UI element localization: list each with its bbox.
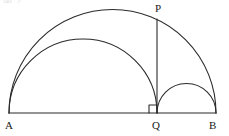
vertex-label-b: B	[209, 120, 216, 131]
right-angle-marker-icon	[149, 105, 157, 113]
geometry-figure: 図 2 A Q B P	[0, 0, 229, 136]
semicircle-arc-AB	[9, 10, 216, 114]
semicircle-arc-QB	[157, 84, 216, 114]
semicircle-arc-AQ	[9, 39, 157, 113]
vertex-label-p: P	[155, 3, 161, 14]
geometry-canvas	[0, 0, 229, 136]
vertex-label-a: A	[5, 120, 13, 131]
vertex-label-q: Q	[152, 120, 160, 131]
